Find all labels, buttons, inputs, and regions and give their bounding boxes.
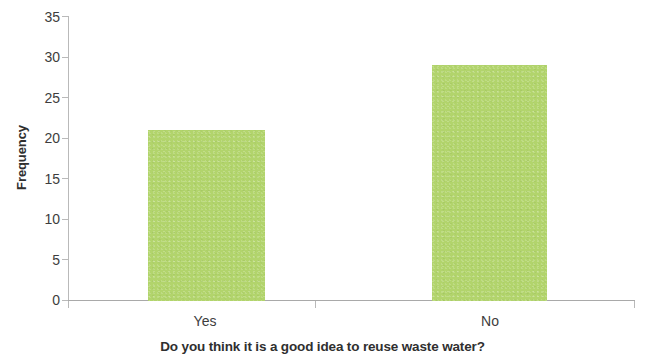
y-tick-label-0: 0 <box>20 293 60 307</box>
bar-chart-figure: Frequency 35 30 25 20 15 10 5 0 Yes No D… <box>0 0 645 359</box>
y-tick-label-25: 25 <box>20 91 60 105</box>
x-category-label-no: No <box>420 313 560 329</box>
x-tick-mark-end <box>634 301 635 308</box>
x-category-label-yes: Yes <box>135 313 275 329</box>
y-tick-label-35: 35 <box>20 10 60 24</box>
y-axis-tick-labels: 35 30 25 20 15 10 5 0 <box>12 0 60 359</box>
y-tick-label-5: 5 <box>20 253 60 267</box>
y-tick-label-15: 15 <box>20 172 60 186</box>
y-tick-label-10: 10 <box>20 212 60 226</box>
y-tick-label-30: 30 <box>20 50 60 64</box>
x-tick-mark-start <box>68 301 69 308</box>
y-tick-label-20: 20 <box>20 131 60 145</box>
x-tick-mark-middle <box>315 301 316 308</box>
x-axis-title: Do you think it is a good idea to reuse … <box>0 339 645 354</box>
bar-yes[interactable] <box>148 130 265 301</box>
plot-area <box>68 16 635 301</box>
bar-no[interactable] <box>432 65 547 301</box>
